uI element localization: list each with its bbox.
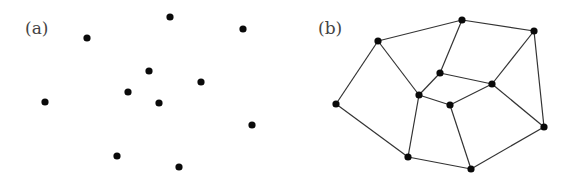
node-G xyxy=(446,101,453,108)
panel-a-label: (a) xyxy=(25,18,48,38)
node-p6 xyxy=(124,88,131,95)
node-p10 xyxy=(113,152,120,159)
panel-b-label: (b) xyxy=(318,18,342,38)
graph-edge-E-I xyxy=(492,84,544,127)
node-p3 xyxy=(239,25,246,32)
panel-b-nodes xyxy=(332,16,547,172)
graph-edge-C-E xyxy=(492,31,534,84)
node-B xyxy=(458,16,465,23)
node-p2 xyxy=(166,13,173,20)
node-J xyxy=(404,153,411,160)
graph-edge-J-K xyxy=(408,157,471,169)
graph-edge-A-B xyxy=(378,20,462,41)
panel-a-nodes xyxy=(41,13,255,170)
node-A xyxy=(374,37,381,44)
panel-b-graph: (b) xyxy=(318,16,548,172)
node-I xyxy=(540,123,547,130)
graph-edge-K-I xyxy=(471,127,544,169)
node-D xyxy=(436,69,443,76)
graph-edge-G-K xyxy=(450,105,471,169)
node-p7 xyxy=(155,99,162,106)
graph-edge-A-F xyxy=(378,41,419,95)
node-p5 xyxy=(197,78,204,85)
graph-edge-F-J xyxy=(408,95,419,157)
graph-edge-A-H xyxy=(336,41,378,104)
graph-edge-C-I xyxy=(534,31,544,127)
graph-edge-B-D xyxy=(440,20,462,73)
graph-edge-D-F xyxy=(419,73,440,95)
graph-edge-B-C xyxy=(462,20,534,31)
node-F xyxy=(415,91,422,98)
node-p1 xyxy=(83,34,90,41)
node-p4 xyxy=(145,67,152,74)
node-C xyxy=(530,27,537,34)
figure: (a) (b) xyxy=(0,0,574,181)
graph-edge-G-E xyxy=(450,84,492,105)
panel-b-edges xyxy=(336,20,544,169)
diagram-canvas: (a) (b) xyxy=(0,0,574,181)
node-K xyxy=(467,165,474,172)
node-p8 xyxy=(41,98,48,105)
panel-a-scatter: (a) xyxy=(25,13,256,170)
graph-edge-H-J xyxy=(336,104,408,157)
node-p11 xyxy=(175,163,182,170)
node-p9 xyxy=(248,121,255,128)
graph-edge-F-G xyxy=(419,95,450,105)
node-H xyxy=(332,100,339,107)
graph-edge-D-E xyxy=(440,73,492,84)
node-E xyxy=(488,80,495,87)
